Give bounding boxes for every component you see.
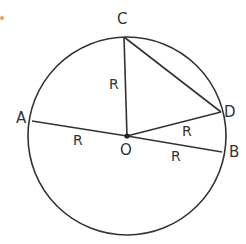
center-point-O: [124, 133, 129, 138]
circle-diagram: C A D B O R R R R: [0, 0, 246, 244]
point-label-A: A: [16, 109, 27, 127]
radius-label-AO: R: [73, 132, 83, 148]
radius-label-OC: R: [109, 76, 119, 92]
segment-OC: [124, 37, 127, 136]
segment-OD: [127, 112, 221, 136]
orange-marker-dot: [0, 16, 4, 20]
point-label-O: O: [120, 141, 132, 159]
radius-label-OD: R: [182, 123, 192, 139]
radius-label-OB: R: [171, 148, 181, 164]
point-label-B: B: [229, 143, 239, 161]
point-label-C: C: [117, 10, 127, 28]
point-label-D: D: [224, 103, 236, 121]
